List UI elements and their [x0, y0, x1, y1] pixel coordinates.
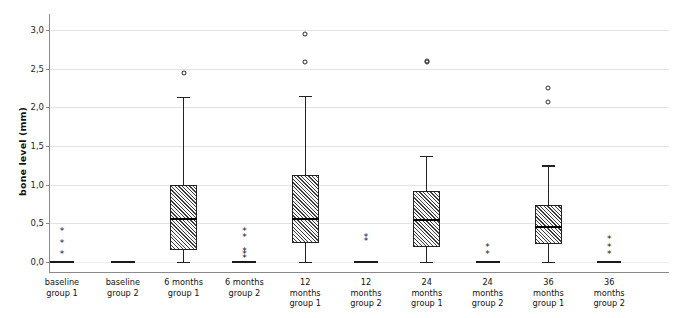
x-axis-tick-label-line: group 2 — [335, 298, 397, 309]
y-axis-tick-mark — [46, 223, 49, 224]
x-axis-tick-label-line: months — [335, 288, 397, 299]
outlier-marker — [546, 86, 551, 91]
x-axis-tick-label-line: months — [517, 288, 579, 299]
outlier-marker — [181, 70, 186, 75]
upper-whisker — [548, 165, 549, 204]
upper-whisker-cap — [542, 165, 555, 166]
x-axis-tick-label: 24monthsgroup 2 — [457, 277, 519, 309]
x-axis-tick-label-line: group 1 — [517, 298, 579, 309]
lower-whisker-cap — [177, 262, 190, 263]
x-axis-tick-label-line: group 2 — [457, 298, 519, 309]
lower-whisker — [426, 247, 427, 262]
x-axis-tick-label-line: 24 — [396, 277, 458, 288]
x-axis-tick-label: 36monthsgroup 1 — [517, 277, 579, 309]
y-axis-line — [49, 14, 50, 272]
extreme-outlier-marker: * — [60, 238, 65, 247]
plot-area: 0,00,51,01,52,02,53,0 *************** — [49, 14, 669, 272]
x-axis-tick-label: 36monthsgroup 2 — [578, 277, 640, 309]
outlier-marker — [303, 31, 308, 36]
y-axis-tick-mark — [46, 262, 49, 263]
x-axis-line — [49, 272, 669, 273]
extreme-outlier-marker: * — [60, 227, 65, 236]
y-axis-tick-label: 1,0 — [30, 180, 44, 190]
y-axis-tick-mark — [46, 69, 49, 70]
lower-whisker-cap — [420, 262, 433, 263]
gridline — [50, 223, 669, 224]
lower-whisker-cap — [542, 262, 555, 263]
median-line — [413, 219, 440, 221]
x-axis-tick-label-line: months — [457, 288, 519, 299]
median-line — [170, 218, 197, 220]
y-axis-tick-mark — [46, 185, 49, 186]
x-axis-tick-label-line: group 1 — [153, 288, 215, 299]
y-axis-tick-label: 1,5 — [30, 141, 44, 151]
x-axis-tick-label-line: 12 — [274, 277, 336, 288]
x-axis-tick-label-line: 12 — [335, 277, 397, 288]
extreme-outlier-marker: * — [485, 250, 490, 259]
x-axis-tick-label: 6 monthsgroup 2 — [213, 277, 275, 298]
lower-whisker — [548, 244, 549, 262]
upper-whisker — [183, 97, 184, 185]
x-axis-tick-label: 12monthsgroup 2 — [335, 277, 397, 309]
box-collapsed-line — [354, 261, 378, 264]
outlier-marker — [303, 60, 308, 65]
x-axis-tick-label-line: group 2 — [578, 298, 640, 309]
upper-whisker-cap — [420, 156, 433, 157]
box-iqr — [535, 205, 562, 244]
extreme-outlier-marker: * — [607, 234, 612, 243]
upper-whisker-cap — [299, 96, 312, 97]
y-axis-title: bone level (mm) — [17, 72, 28, 232]
x-axis-tick-label-line: months — [396, 288, 458, 299]
lower-whisker-cap — [299, 262, 312, 263]
x-axis-tick-label: 12monthsgroup 1 — [274, 277, 336, 309]
x-axis-tick-label: baselinegroup 2 — [92, 277, 154, 298]
box-collapsed-line — [50, 261, 74, 264]
box-iqr — [292, 175, 319, 242]
median-line — [535, 226, 562, 228]
box-collapsed-line — [597, 261, 621, 264]
x-axis-tick-label-line: group 2 — [213, 288, 275, 299]
x-axis-tick-label-line: 6 months — [153, 277, 215, 288]
y-axis-tick-mark — [46, 146, 49, 147]
y-axis-tick-label: 2,5 — [30, 64, 44, 74]
gridline — [50, 185, 669, 186]
x-axis-tick-label-line: group 1 — [31, 288, 93, 299]
x-axis-tick-label-line: baseline — [31, 277, 93, 288]
y-axis-tick-label: 2,0 — [30, 102, 44, 112]
upper-whisker — [426, 156, 427, 191]
gridline — [50, 69, 669, 70]
y-axis-tick-mark — [46, 30, 49, 31]
x-axis-tick-label-line: 36 — [578, 277, 640, 288]
x-axis-tick-label: 6 monthsgroup 1 — [153, 277, 215, 298]
outlier-marker — [424, 58, 429, 63]
x-axis-tick-label-line: 24 — [457, 277, 519, 288]
gridline — [50, 30, 669, 31]
extreme-outlier-marker: * — [607, 242, 612, 251]
median-line — [292, 218, 319, 220]
extreme-outlier-marker: * — [364, 233, 369, 242]
x-axis-tick-label-line: group 2 — [92, 288, 154, 299]
lower-whisker — [305, 243, 306, 262]
y-axis-tick-mark — [46, 107, 49, 108]
x-axis-tick-label-line: 36 — [517, 277, 579, 288]
extreme-outlier-marker: * — [242, 227, 247, 236]
extreme-outlier-marker: * — [485, 242, 490, 251]
gridline — [50, 107, 669, 108]
extreme-outlier-marker: * — [242, 247, 247, 256]
boxplot-figure: bone level (mm) 0,00,51,01,52,02,53,0 **… — [0, 0, 676, 318]
x-axis-tick-label: 24monthsgroup 1 — [396, 277, 458, 309]
x-axis-tick-label-line: months — [274, 288, 336, 299]
extreme-outlier-marker: * — [60, 250, 65, 259]
y-axis-tick-label: 0,5 — [30, 218, 44, 228]
upper-whisker-cap — [177, 97, 190, 98]
extreme-outlier-marker: * — [607, 250, 612, 259]
x-axis-tick-label-line: 6 months — [213, 277, 275, 288]
gridline — [50, 146, 669, 147]
outlier-marker — [546, 99, 551, 104]
x-axis-tick-label-line: group 1 — [274, 298, 336, 309]
box-collapsed-line — [476, 261, 500, 264]
upper-whisker — [305, 96, 306, 176]
box-collapsed-line — [111, 261, 135, 264]
x-axis-tick-label: baselinegroup 1 — [31, 277, 93, 298]
y-axis-tick-label: 0,0 — [30, 257, 44, 267]
